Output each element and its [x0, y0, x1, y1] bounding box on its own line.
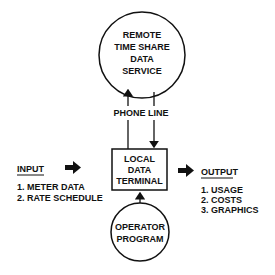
svg-text:DATA: DATA — [128, 165, 152, 175]
svg-text:1. USAGE: 1. USAGE — [201, 185, 243, 195]
svg-text:1. METER DATA: 1. METER DATA — [17, 182, 85, 192]
svg-text:TERMINAL: TERMINAL — [116, 176, 163, 186]
local-terminal-node: LOCAL DATA TERMINAL — [112, 149, 167, 190]
svg-text:PROGRAM: PROGRAM — [117, 234, 164, 244]
svg-text:OUTPUT: OUTPUT — [201, 167, 239, 177]
phone-line-label: PHONE LINE — [113, 108, 168, 118]
svg-text:DATA: DATA — [130, 54, 154, 64]
system-diagram: REMOTE TIME SHARE DATA SERVICE PHONE LIN… — [0, 0, 275, 275]
svg-text:REMOTE: REMOTE — [123, 30, 162, 40]
remote-service-node: REMOTE TIME SHARE DATA SERVICE — [99, 12, 185, 98]
svg-text:2. COSTS: 2. COSTS — [201, 195, 242, 205]
svg-text:2. RATE SCHEDULE: 2. RATE SCHEDULE — [17, 193, 103, 203]
output-arrow-icon — [178, 164, 194, 177]
svg-text:3. GRAPHICS: 3. GRAPHICS — [201, 205, 259, 215]
svg-text:SERVICE: SERVICE — [122, 66, 161, 76]
svg-text:INPUT: INPUT — [17, 164, 45, 174]
input-block: INPUT 1. METER DATA 2. RATE SCHEDULE — [17, 161, 103, 203]
output-block: OUTPUT 1. USAGE 2. COSTS 3. GRAPHICS — [178, 164, 259, 215]
input-arrow-icon — [65, 161, 81, 174]
phone-line-connection: PHONE LINE — [108, 90, 172, 149]
svg-text:TIME SHARE: TIME SHARE — [114, 42, 170, 52]
svg-text:OPERATOR: OPERATOR — [115, 222, 166, 232]
svg-text:LOCAL: LOCAL — [124, 154, 155, 164]
operator-program-node: OPERATOR PROGRAM — [111, 193, 169, 261]
